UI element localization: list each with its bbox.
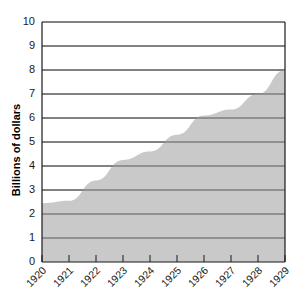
- y-tick-label: 2: [29, 207, 35, 219]
- chart-canvas: 012345678910 192019211922192319241925192…: [0, 0, 302, 301]
- y-tick-label: 8: [29, 63, 35, 75]
- y-tick-label: 10: [23, 15, 35, 27]
- y-tick-labels: 012345678910: [23, 15, 35, 267]
- y-tick-label: 7: [29, 87, 35, 99]
- y-tick-label: 1: [29, 231, 35, 243]
- x-tick-label: 1926: [185, 264, 210, 289]
- x-tick-label: 1924: [131, 264, 156, 289]
- y-tick-label: 3: [29, 183, 35, 195]
- x-tick-label: 1920: [23, 264, 48, 289]
- x-tick-label: 1928: [239, 264, 264, 289]
- x-tick-label: 1929: [266, 264, 291, 289]
- y-tick-label: 5: [29, 135, 35, 147]
- y-tick-label: 6: [29, 111, 35, 123]
- y-tick-label: 9: [29, 39, 35, 51]
- y-tick-label: 4: [29, 159, 35, 171]
- y-tick-label: 0: [29, 255, 35, 267]
- y-axis-title: Billions of dollars: [10, 104, 22, 196]
- x-tick-label: 1921: [50, 264, 75, 289]
- x-tick-label: 1927: [212, 264, 237, 289]
- area-chart: 012345678910 192019211922192319241925192…: [0, 0, 302, 301]
- x-tick-label: 1925: [158, 264, 183, 289]
- x-tick-label: 1922: [77, 264, 102, 289]
- x-tick-label: 1923: [104, 264, 129, 289]
- x-tick-labels: 1920192119221923192419251926192719281929: [23, 264, 291, 289]
